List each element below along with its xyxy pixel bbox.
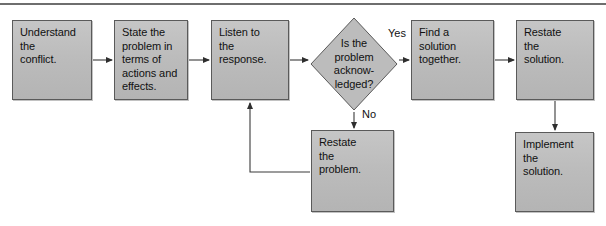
process-node-understand-the-conflict: Understand the conflict.	[12, 20, 92, 100]
process-node-restate-the-problem: Restate the problem.	[311, 130, 394, 212]
process-node-find-a-solution-together: Find a solution together.	[411, 20, 494, 100]
connector-restate-problem-back-to-listen	[250, 103, 310, 172]
edge-label-no: No	[362, 108, 376, 121]
decision-node-label: Is the problem acknow- ledged?	[310, 17, 398, 111]
process-node-state-the-problem: State the problem in terms of actions an…	[114, 20, 188, 100]
edge-label-yes: Yes	[388, 27, 406, 40]
process-node-listen-to-the-response: Listen to the response.	[211, 20, 289, 100]
flowchart-figure: Understand the conflict.State the proble…	[0, 0, 606, 226]
process-node-restate-the-solution: Restate the solution.	[516, 20, 594, 100]
process-node-implement-the-solution: Implement the solution.	[515, 132, 594, 212]
decision-node-is-the-problem-acknowledged: Is the problem acknow- ledged?	[310, 17, 398, 111]
